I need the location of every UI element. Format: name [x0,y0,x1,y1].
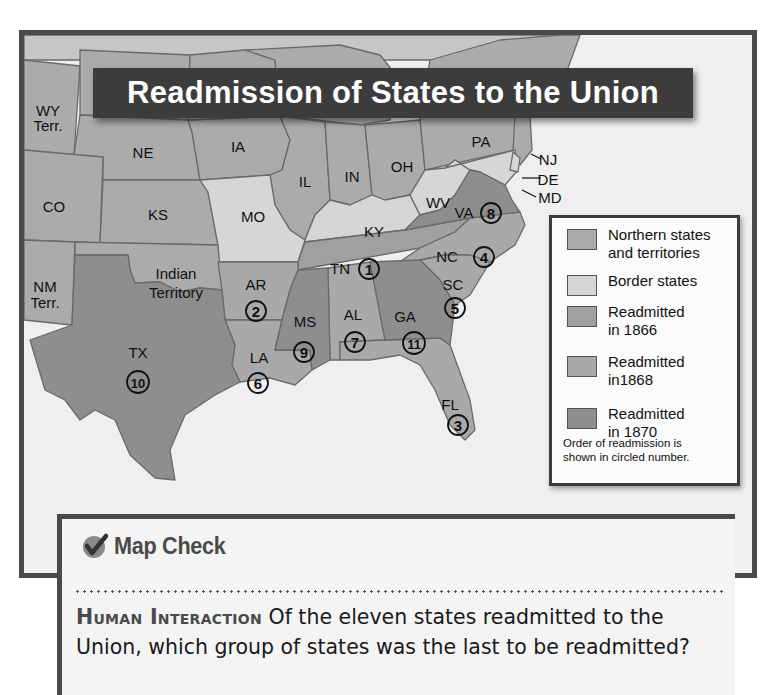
question-kicker: Human Interaction [76,605,262,629]
legend-item-border: Border states [567,272,737,303]
svg-text:11: 11 [407,337,421,352]
label-sc: SC [443,276,464,293]
label-co: CO [43,198,66,215]
label-ms: MS [294,313,317,330]
legend-item-northern: Northern statesand territories [567,226,737,272]
label-nm: NM [33,278,56,295]
legend-label: Readmitted [608,303,685,320]
legend-item-1868: Readmittedin1868 [567,353,737,405]
label-va: VA [455,204,474,221]
legend-label: in 1866 [608,321,657,338]
label-mo: MO [241,208,265,225]
label-md: MD [538,189,561,206]
svg-text:3: 3 [454,417,462,434]
legend-note: Order of readmission isshown in circled … [563,436,690,464]
swatch-1870 [567,408,597,429]
label-nj: NJ [539,151,557,168]
label-la: LA [250,349,268,366]
label-wy-terr: Terr. [33,117,62,134]
label-al: AL [344,306,362,323]
label-fl: FL [441,396,459,413]
swatch-northern [567,229,597,250]
label-wv: WV [426,194,450,211]
legend-label: Readmitted [608,353,685,370]
legend-label: Readmitted [608,405,685,422]
svg-text:10: 10 [131,376,145,391]
label-oh: OH [391,158,414,175]
label-ks: KS [148,206,168,223]
label-ga: GA [394,308,416,325]
legend-label: Border states [608,272,697,290]
map-check-box: Map Check Human Interaction Of the eleve… [57,514,735,695]
svg-text:8: 8 [487,205,495,222]
dotted-divider [74,590,724,593]
svg-text:1: 1 [365,261,373,278]
label-indian: Indian [156,265,197,282]
legend-item-1866: Readmittedin 1866 [567,303,737,353]
label-territory: Territory [149,284,204,301]
swatch-1866 [567,306,597,327]
map-check-title: Map Check [114,532,226,560]
map-check-question: Human Interaction Of the eleven states r… [76,602,721,662]
map-title: Readmission of States to the Union [93,68,693,118]
label-nc: NC [436,248,458,265]
label-il: IL [299,173,312,190]
svg-text:5: 5 [451,300,459,317]
svg-text:6: 6 [254,375,262,392]
state-co [24,150,103,243]
svg-text:2: 2 [252,303,260,320]
state-in [325,122,372,205]
swatch-border [567,275,597,296]
svg-text:9: 9 [300,344,308,361]
label-in: IN [345,168,360,185]
label-ar: AR [246,276,267,293]
label-pa: PA [472,133,491,150]
legend-label: in1868 [608,371,653,388]
legend-label: Northern states [608,226,711,243]
label-tx: TX [128,344,147,361]
legend-label: and territories [608,244,700,261]
checkmark-icon [80,531,110,561]
svg-text:4: 4 [480,249,489,266]
label-ia: IA [231,138,245,155]
legend: Northern statesand territories Border st… [549,215,740,486]
label-ne: NE [133,144,154,161]
map-check-header: Map Check [80,531,238,561]
swatch-1868 [567,356,597,377]
svg-text:7: 7 [351,334,359,351]
label-ky: KY [364,223,384,240]
label-de: DE [538,171,559,188]
label-nm-terr: Terr. [30,294,59,311]
label-tn: TN [330,260,350,277]
